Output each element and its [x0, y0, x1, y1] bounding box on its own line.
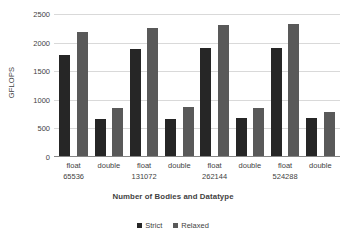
bar[interactable]: [324, 112, 335, 157]
bar-slot: [303, 14, 321, 157]
bar[interactable]: [306, 118, 317, 157]
y-axis-tick-label: 2000: [20, 38, 50, 47]
x-axis-group-label: 131072: [127, 171, 162, 182]
x-axis-group-label: 262144: [197, 171, 232, 182]
bar-slot: [285, 14, 303, 157]
legend-entry[interactable]: Relaxed: [173, 221, 209, 230]
legend-swatch-icon: [137, 223, 142, 228]
bar[interactable]: [218, 25, 229, 157]
bar[interactable]: [236, 118, 247, 157]
bar-slot: [268, 14, 286, 157]
x-axis-group: floatdouble65536: [56, 160, 127, 190]
bar-slot: [127, 14, 145, 157]
bar-slot: [56, 14, 74, 157]
x-axis-group-label: 65536: [56, 171, 91, 182]
x-axis-group-label: 524288: [268, 171, 303, 182]
bar-slot: [232, 14, 250, 157]
chart-legend: StrictRelaxed: [0, 221, 346, 230]
bar-slot: [179, 14, 197, 157]
bar-slot: [162, 14, 180, 157]
bars-layer: [54, 14, 340, 157]
bar[interactable]: [77, 32, 88, 157]
x-axis-group-spacer: [91, 171, 126, 182]
bar-slot: [109, 14, 127, 157]
y-axis-tick-label: 1000: [20, 95, 50, 104]
x-axis-category-label: double: [232, 160, 267, 171]
legend-label: Relaxed: [181, 221, 209, 230]
x-axis-tick-labels: floatdouble65536floatdouble131072floatdo…: [54, 160, 340, 190]
x-axis-group: floatdouble524288: [268, 160, 339, 190]
x-axis-category-label: float: [127, 160, 162, 171]
x-axis-category-label: double: [162, 160, 197, 171]
bar-chart: GFLOPS 25002000150010005000 floatdouble6…: [0, 0, 346, 247]
legend-swatch-icon: [173, 223, 178, 228]
legend-label: Strict: [145, 221, 162, 230]
bar[interactable]: [271, 48, 282, 157]
bar[interactable]: [112, 108, 123, 157]
bar[interactable]: [253, 108, 264, 157]
bar[interactable]: [183, 107, 194, 157]
bar[interactable]: [130, 49, 141, 157]
y-axis-tick-labels: 25002000150010005000: [20, 14, 50, 160]
y-axis-tick-label: 500: [20, 124, 50, 133]
legend-entry[interactable]: Strict: [137, 221, 162, 230]
bar[interactable]: [147, 28, 158, 157]
bar[interactable]: [288, 24, 299, 157]
x-axis-category-label: float: [56, 160, 91, 171]
x-axis-category-label: double: [91, 160, 126, 171]
x-axis-group-spacer: [303, 171, 338, 182]
bar[interactable]: [200, 48, 211, 157]
y-axis-tick-label: 2500: [20, 10, 50, 19]
y-axis-tick-label: 1500: [20, 67, 50, 76]
plot-area: [54, 14, 340, 157]
bar-slot: [215, 14, 233, 157]
x-axis-group: floatdouble131072: [127, 160, 198, 190]
x-axis-category-label: float: [197, 160, 232, 171]
bar[interactable]: [95, 119, 106, 157]
bar-slot: [320, 14, 338, 157]
bar[interactable]: [165, 119, 176, 157]
y-axis-title: GFLOPS: [7, 53, 16, 113]
x-axis-group: floatdouble262144: [197, 160, 268, 190]
bar[interactable]: [59, 55, 70, 157]
bar-slot: [144, 14, 162, 157]
bar-slot: [74, 14, 92, 157]
x-axis-line: [54, 156, 340, 157]
x-axis-group-spacer: [232, 171, 267, 182]
bar-slot: [91, 14, 109, 157]
x-axis-category-label: float: [268, 160, 303, 171]
x-axis-title: Number of Bodies and Datatype: [0, 192, 346, 201]
bar-slot: [250, 14, 268, 157]
x-axis-category-label: double: [303, 160, 338, 171]
bar-slot: [197, 14, 215, 157]
x-axis-group-spacer: [162, 171, 197, 182]
y-axis-tick-label: 0: [20, 153, 50, 162]
